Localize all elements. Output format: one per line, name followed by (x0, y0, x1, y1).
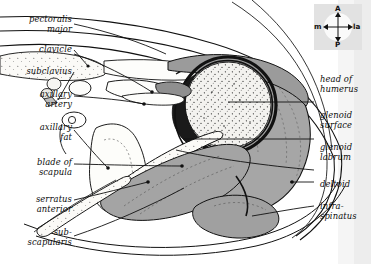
label-serratus-anterior: serratusanterior (6, 194, 72, 214)
coracoid-tip (122, 93, 184, 105)
label-glenoid-surface: glenoidsurface (320, 110, 352, 130)
label-line-2: artery (45, 99, 72, 109)
compass-label-posterior: P (335, 41, 340, 48)
label-axillary-artery: axillaryartery (10, 89, 72, 109)
anatomy-figure: A P m la pectoralismajor clavicle subcla… (0, 0, 371, 264)
label-line-2: anterior (37, 204, 72, 214)
label-subscapularis: sub-scapularis (2, 227, 72, 247)
label-pectoralis-major: pectoralismajor (10, 14, 72, 34)
label-line-1: blade of (37, 157, 72, 167)
label-line-1: axillary (40, 122, 72, 132)
label-line-2: humerus (320, 84, 358, 94)
label-line-2: spinatus (320, 211, 357, 221)
compass-label-lateral: la (353, 23, 360, 30)
label-line-1: subclavius (26, 66, 72, 76)
label-line-1: head of (320, 74, 352, 84)
label-axillary-fat: axillaryfat (10, 122, 72, 142)
label-head-of-humerus: head ofhumerus (320, 74, 358, 94)
label-line-1: infra- (320, 201, 344, 211)
label-subclavius: subclavius (4, 66, 72, 76)
label-glenoid-labrum: glenoidlabrum (320, 142, 352, 162)
compass-label-medial: m (314, 23, 322, 30)
label-line-1: clavicle (39, 44, 72, 54)
label-deltoid: deltoid (320, 179, 350, 189)
label-line-1: axillary (40, 89, 72, 99)
label-line-1: sub- (54, 227, 72, 237)
label-line-1: deltoid (320, 179, 350, 189)
compass-label-anterior: A (335, 5, 341, 12)
label-infraspinatus: infra-spinatus (320, 201, 357, 221)
label-blade-of-scapula: blade ofscapula (10, 157, 72, 177)
label-line-2: major (47, 24, 72, 34)
clavicle-body (69, 81, 91, 96)
label-line-1: glenoid (320, 110, 352, 120)
label-line-2: scapularis (28, 237, 72, 247)
label-line-2: scapula (39, 167, 72, 177)
label-clavicle: clavicle (10, 44, 72, 54)
label-line-2: fat (60, 132, 72, 142)
label-line-2: surface (320, 120, 352, 130)
head-of-humerus-bone (185, 62, 271, 148)
infraspinatus-muscle (193, 195, 279, 238)
label-line-1: glenoid (320, 142, 352, 152)
label-line-2: labrum (320, 152, 351, 162)
label-line-1: serratus (36, 194, 72, 204)
label-line-1: pectoralis (29, 14, 72, 24)
